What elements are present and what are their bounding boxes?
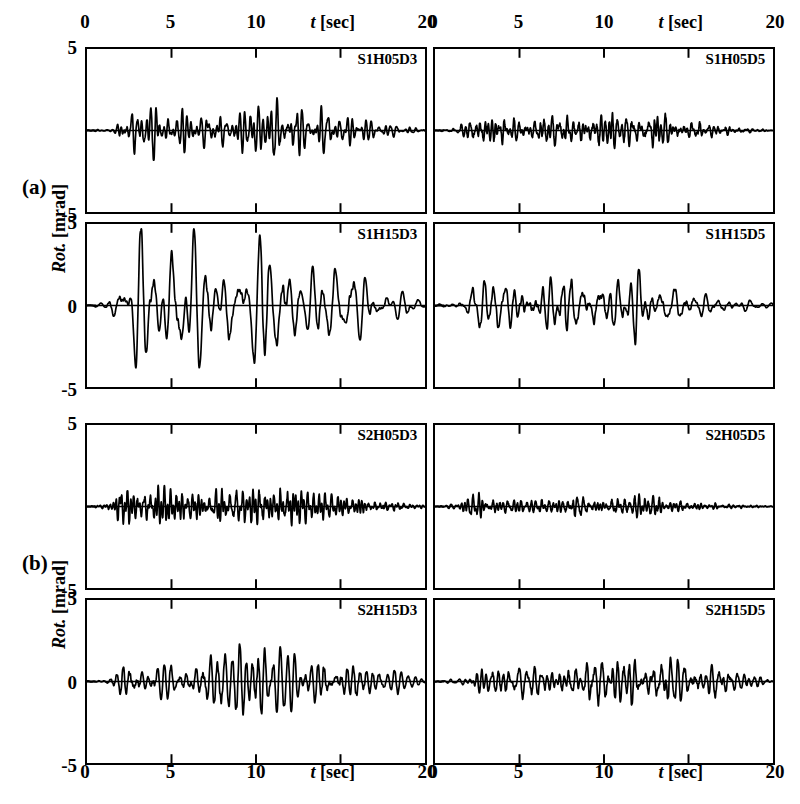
waveform-trace-s1h15d3 xyxy=(87,229,425,368)
x-axis-unit: [sec] xyxy=(320,12,355,32)
plot-panel-s2h05d5: S2H05D5 xyxy=(433,423,775,590)
waveform-canvas-s1h05d3 xyxy=(87,49,425,212)
waveform-canvas-s2h15d5 xyxy=(435,600,773,763)
x-axis-unit: [sec] xyxy=(668,12,703,32)
y-axis-title-group-b: Rot. [mrad] xyxy=(50,560,68,649)
waveform-canvas-s2h15d3 xyxy=(87,600,425,763)
waveform-trace-s1h05d5 xyxy=(435,113,773,149)
x-axis-symbol: t xyxy=(311,12,316,32)
plot-panel-s1h05d5: S1H05D5 xyxy=(433,47,775,214)
x-tick-label-bottom-c1-20: 20 xyxy=(755,762,795,781)
plot-panel-s1h15d5: S1H15D5 xyxy=(433,222,775,389)
y-axis-symbol: Rot. xyxy=(49,618,69,649)
x-axis-title-top-c1: t [sec] xyxy=(659,13,704,31)
x-axis-unit: [sec] xyxy=(320,762,355,782)
x-tick-label-top-c0-5: 5 xyxy=(151,12,191,31)
y-axis-title-group-a: Rot. [mrad] xyxy=(50,184,68,273)
x-axis-symbol: t xyxy=(659,12,664,32)
panel-case-label: S1H05D5 xyxy=(706,52,765,67)
x-axis-title-bottom-c1: t [sec] xyxy=(659,763,704,781)
x-tick-label-top-c0-10: 10 xyxy=(236,12,276,31)
panel-case-label: S2H15D5 xyxy=(706,603,765,618)
waveform-trace-s1h05d3 xyxy=(87,98,425,160)
panel-case-label: S2H05D3 xyxy=(358,428,417,443)
y-axis-unit: [mrad] xyxy=(49,184,69,238)
group-label-a: (a) xyxy=(22,177,47,198)
panel-case-label: S1H15D5 xyxy=(706,227,765,242)
y-tick-label-r3-0: 0 xyxy=(39,673,77,692)
y-tick-label-r2-5: 5 xyxy=(39,414,77,433)
x-axis-symbol: t xyxy=(311,762,316,782)
waveform-canvas-s1h05d5 xyxy=(435,49,773,212)
panel-case-label: S1H15D3 xyxy=(358,227,417,242)
x-tick-label-bottom-c1-10: 10 xyxy=(584,762,624,781)
x-axis-title-top-c0: t [sec] xyxy=(311,13,356,31)
x-tick-label-top-c1-10: 10 xyxy=(584,12,624,31)
plot-panel-s2h15d3: S2H15D3 xyxy=(85,598,427,765)
x-axis-symbol: t xyxy=(659,762,664,782)
panel-case-label: S2H05D5 xyxy=(706,428,765,443)
x-tick-label-top-c1-5: 5 xyxy=(499,12,539,31)
x-tick-label-bottom-c1-5: 5 xyxy=(499,762,539,781)
waveform-canvas-s1h15d3 xyxy=(87,224,425,387)
x-tick-label-top-c0-0: 0 xyxy=(65,12,105,31)
x-tick-label-bottom-c0-10: 10 xyxy=(236,762,276,781)
x-axis-unit: [sec] xyxy=(668,762,703,782)
x-tick-label-top-c1-20: 20 xyxy=(755,12,795,31)
plot-panel-s2h15d5: S2H15D5 xyxy=(433,598,775,765)
figure-rotation-time-histories: S1H05D3S1H05D5S1H15D3S1H15D5S2H05D3S2H05… xyxy=(0,0,800,804)
waveform-trace-s2h15d3 xyxy=(87,644,425,715)
y-tick-label-r3--5: -5 xyxy=(39,756,77,775)
plot-panel-s1h15d3: S1H15D3 xyxy=(85,222,427,389)
y-tick-label-r1--5: -5 xyxy=(39,380,77,399)
plot-panel-s2h05d3: S2H05D3 xyxy=(85,423,427,590)
y-tick-label-r0-5: 5 xyxy=(39,38,77,57)
panel-case-label: S1H05D3 xyxy=(358,52,417,67)
waveform-canvas-s1h15d5 xyxy=(435,224,773,387)
x-tick-label-top-c1-0: 0 xyxy=(413,12,453,31)
waveform-trace-s2h05d3 xyxy=(87,485,425,525)
group-label-b: (b) xyxy=(22,553,48,574)
x-tick-label-bottom-c1-0: 0 xyxy=(413,762,453,781)
plot-panel-s1h05d3: S1H05D3 xyxy=(85,47,427,214)
x-tick-label-bottom-c0-5: 5 xyxy=(151,762,191,781)
waveform-canvas-s2h05d5 xyxy=(435,425,773,588)
waveform-trace-s1h15d5 xyxy=(435,270,773,345)
waveform-canvas-s2h05d3 xyxy=(87,425,425,588)
x-axis-title-bottom-c0: t [sec] xyxy=(311,763,356,781)
y-axis-unit: [mrad] xyxy=(49,560,69,614)
waveform-trace-s2h05d5 xyxy=(435,493,773,518)
panel-case-label: S2H15D3 xyxy=(358,603,417,618)
waveform-trace-s2h15d5 xyxy=(435,657,773,706)
y-axis-symbol: Rot. xyxy=(49,242,69,273)
y-tick-label-r1-0: 0 xyxy=(39,297,77,316)
